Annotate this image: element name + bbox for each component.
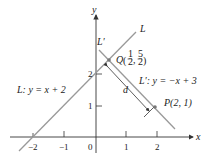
point-Q-label: Q ( 1 2 , 5 2 ) <box>116 48 146 67</box>
point-P <box>153 105 157 109</box>
line-L-prime-equation: L′: y = −x + 3 <box>138 75 197 86</box>
line-L-prime <box>99 50 175 129</box>
line-L-name: L <box>139 23 146 34</box>
distance-indicator <box>107 66 149 111</box>
point-P-label: P(2, 1) <box>163 97 192 109</box>
coordinate-diagram: y x −2 −1 0 1 2 1 2 L L′ L: y = x + 2 L′… <box>0 0 207 163</box>
point-Q <box>107 58 111 62</box>
x-tick-label: −2 <box>28 142 38 152</box>
line-L-equation: L: y = x + 2 <box>16 84 66 95</box>
y-ticks <box>96 74 102 106</box>
x-tick-label: 1 <box>124 142 129 152</box>
distance-endcap <box>144 107 154 117</box>
y-axis-label: y <box>91 4 97 15</box>
line-L-prime-name: L′ <box>96 36 106 47</box>
x-tick-label: −1 <box>59 142 69 152</box>
x-tick-label: 2 <box>155 142 160 152</box>
x-axis-label: x <box>195 131 201 142</box>
x-tick-label: 0 <box>88 142 93 152</box>
x-ticks <box>33 131 157 137</box>
svg-text:): ) <box>143 55 146 67</box>
y-tick-label: 1 <box>88 101 93 111</box>
y-tick-label: 2 <box>88 69 93 79</box>
distance-label: d <box>123 84 129 95</box>
svg-text:,: , <box>133 54 136 65</box>
svg-text:(: ( <box>123 55 127 67</box>
